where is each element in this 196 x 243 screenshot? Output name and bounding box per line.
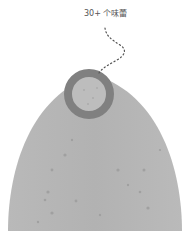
taste-bud-ring: [68, 73, 110, 115]
leader-line: [99, 28, 124, 73]
tongue-illustration: [0, 0, 196, 243]
taste-bud-count-label: 30+ 个味蕾: [84, 7, 127, 18]
